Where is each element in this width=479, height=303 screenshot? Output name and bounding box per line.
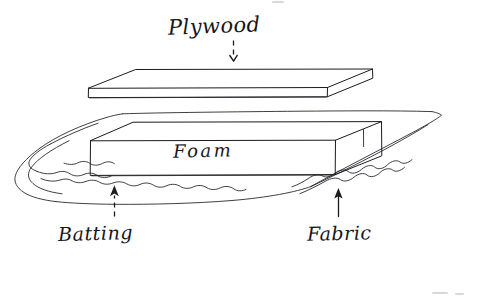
label-plywood: Plywood	[168, 12, 261, 40]
plywood-board	[88, 69, 373, 98]
label-fabric: Fabric	[307, 221, 372, 245]
sketch-canvas	[0, 0, 479, 303]
batting-arrow	[110, 185, 119, 216]
upholstery-layers-diagram: Plywood Foam Batting Fabric	[0, 0, 479, 303]
label-foam: Foam	[173, 139, 234, 161]
foam-block	[90, 122, 382, 176]
fabric-arrow	[334, 188, 342, 217]
plywood-arrow	[230, 41, 237, 62]
paper-smudge	[272, 1, 464, 295]
label-batting: Batting	[58, 221, 134, 245]
